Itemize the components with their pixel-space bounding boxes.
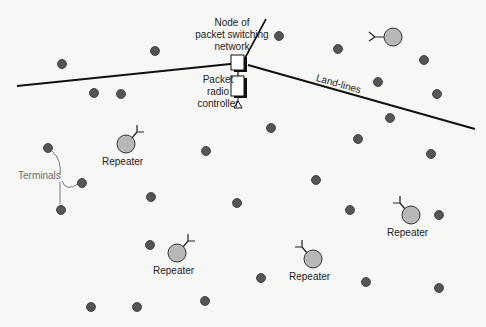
terminal-dot: [87, 303, 96, 312]
controller-label-line: controller: [188, 98, 248, 110]
terminal-dot: [44, 144, 53, 153]
terminal-dot: [346, 206, 355, 215]
terminal-dot: [133, 303, 142, 312]
terminal-dot: [362, 278, 371, 287]
terminal-dot: [147, 193, 156, 202]
terminal-dot: [257, 274, 266, 283]
terminal-dot: [151, 47, 160, 56]
packet-radio-network-diagram: Node of packet switching network Packet …: [0, 0, 486, 327]
terminal-dot: [334, 45, 343, 54]
repeaters: [117, 28, 420, 268]
repeater-icon: [168, 234, 195, 262]
terminal-dot: [433, 90, 442, 99]
node-label-line: packet switching: [176, 29, 288, 41]
terminal-dot: [146, 241, 155, 250]
repeater-label: Repeater: [387, 227, 428, 239]
repeater-label: Repeater: [153, 265, 194, 277]
terminal-dot: [267, 124, 276, 133]
controller-label-line: radio: [188, 86, 248, 98]
controller-label-line: Packet: [188, 74, 248, 86]
node-label: Node of packet switching network: [176, 17, 288, 53]
terminal-dot: [117, 90, 126, 99]
terminal-dot: [58, 60, 67, 69]
terminal-dot: [435, 284, 444, 293]
terminal-dot: [354, 135, 363, 144]
terminal-dot: [57, 206, 66, 215]
repeater-icon: [117, 125, 144, 153]
terminals-label: Terminals: [18, 170, 61, 182]
terminal-dot: [202, 147, 211, 156]
terminal-dot: [374, 78, 383, 87]
repeater-icon: [369, 28, 402, 46]
repeater-label: Repeater: [102, 156, 143, 168]
node-label-line: network: [176, 41, 288, 53]
terminal-dot: [90, 89, 99, 98]
terminal-dot: [312, 176, 321, 185]
terminal-dot: [233, 199, 242, 208]
packet-switching-node-icon: [231, 55, 247, 72]
terminal-dot: [427, 150, 436, 159]
terminal-dot: [386, 114, 395, 123]
node-label-line: Node of: [176, 17, 288, 29]
terminal-dot: [201, 297, 210, 306]
repeater-icon: [295, 240, 322, 268]
repeater-label: Repeater: [289, 271, 330, 283]
terminal-dot: [435, 211, 444, 220]
terminal-dot: [78, 179, 87, 188]
terminal-dot: [420, 56, 429, 65]
repeater-icon: [393, 196, 420, 224]
controller-label: Packet radio controller: [188, 74, 248, 110]
